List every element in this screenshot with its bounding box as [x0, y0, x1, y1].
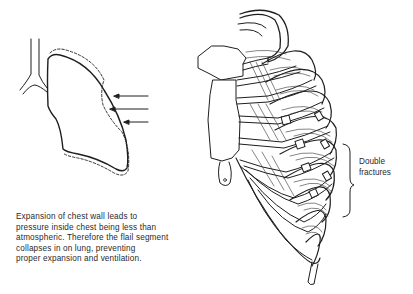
- caption-line: atmospheric. Therefore the flail segment: [16, 233, 206, 244]
- inward-arrows: [110, 94, 148, 124]
- label-line: fractures: [359, 168, 391, 179]
- manubrium: [198, 46, 246, 80]
- sternum: [208, 80, 240, 161]
- figure-caption: Expansion of chest wall leads to pressur…: [16, 212, 206, 265]
- caption-line: collapses in on lung, preventing: [16, 244, 206, 255]
- double-fractures-label: Double fractures: [359, 157, 391, 178]
- caption-line: pressure inside chest being less than: [16, 223, 206, 234]
- xiphoid-process: [219, 162, 232, 186]
- caption-line: proper expansion and ventilation.: [16, 254, 206, 265]
- rib-cage: [198, 10, 354, 284]
- double-fractures-bracket: [343, 144, 354, 217]
- caption-line: Expansion of chest wall leads to: [16, 212, 206, 223]
- lung-diagram: [20, 39, 148, 175]
- lung-outline: [48, 55, 128, 171]
- trachea-icon: [20, 39, 31, 90]
- label-line: Double: [359, 157, 391, 168]
